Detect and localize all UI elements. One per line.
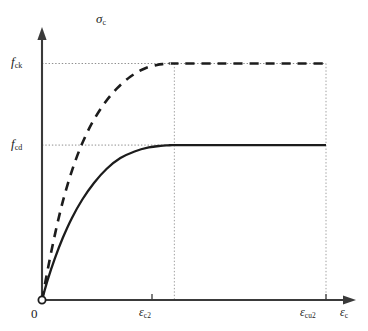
fcd-subscript: cd — [15, 143, 23, 152]
fck-subscript: ck — [15, 61, 23, 70]
x-axis-title-subscript: c — [345, 311, 348, 320]
epsilon-cu2-subscript: cu2 — [305, 311, 316, 320]
y-axis-title-subscript: c — [102, 18, 106, 27]
x-axis-title: εc — [340, 306, 348, 318]
origin-label: 0 — [31, 307, 38, 320]
y-axis-arrowhead — [37, 27, 46, 40]
axes — [37, 27, 356, 305]
origin-marker — [38, 296, 45, 303]
y-axis-title: σc — [96, 12, 106, 25]
y-tick-label-fck: fck — [11, 55, 22, 68]
plot-canvas — [0, 0, 368, 331]
curve-characteristic-fck — [42, 63, 326, 300]
curve-design-fcd — [42, 145, 326, 300]
guide-lines — [42, 64, 326, 301]
x-tick-label-epsilon-cu2: εcu2 — [300, 306, 316, 318]
x-axis-arrowhead — [343, 295, 356, 304]
x-tick-label-epsilon-c2: εc2 — [139, 306, 151, 318]
epsilon-c2-subscript: c2 — [144, 311, 151, 320]
stress-strain-diagram: σc εc fck fcd εc2 εcu2 0 — [0, 0, 368, 331]
y-tick-label-fcd: fcd — [11, 137, 22, 150]
